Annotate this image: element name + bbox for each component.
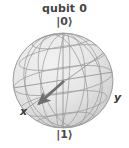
- axis-label-y: y: [114, 92, 121, 103]
- axis-label-x: x: [20, 106, 27, 117]
- bloch-sphere-graphic: [0, 0, 129, 148]
- bloch-sphere-figure: qubit 0 |0⟩: [0, 0, 129, 148]
- state-label-ket-one: |1⟩: [0, 129, 129, 140]
